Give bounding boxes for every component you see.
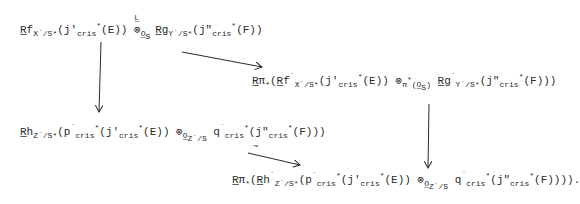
iso-label: ~ bbox=[253, 142, 258, 152]
arrow-bottom-diagonal bbox=[248, 153, 300, 165]
node-top-left-text: R̲fX˙/S*(j'cris*(E)) ⊗O̲SL̲R̲gY˙/S*(j"cr… bbox=[20, 24, 263, 36]
arrow-top-diagonal bbox=[182, 52, 262, 67]
node-mid-left-text: R̲hZ˙/S*(p˙cris*(j'cris*(E)) ⊗O̲Z˙/S q˙c… bbox=[20, 126, 326, 138]
node-bottom-right: R̲π*(R̲h˙Z˙/S*(p˙cris*(j'cris*(E)) ⊗O̲Z˙… bbox=[232, 172, 580, 191]
arrow-right-vertical bbox=[428, 104, 429, 168]
node-bottom-right-text: R̲π*(R̲h˙Z˙/S*(p˙cris*(j'cris*(E)) ⊗O̲Z˙… bbox=[232, 174, 580, 186]
node-top-left: R̲fX˙/S*(j'cris*(E)) ⊗O̲SL̲R̲gY˙/S*(j"cr… bbox=[20, 22, 263, 41]
arrow-left-vertical bbox=[99, 42, 101, 112]
node-mid-right: R̲π*(R̲f˙X˙/S*(j'cris*(E)) ⊗π*(O̲S) R̲g˙… bbox=[252, 73, 556, 92]
node-mid-right-text: R̲π*(R̲f˙X˙/S*(j'cris*(E)) ⊗π*(O̲S) R̲g˙… bbox=[252, 75, 556, 87]
node-mid-left: R̲hZ˙/S*(p˙cris*(j'cris*(E)) ⊗O̲Z˙/S q˙c… bbox=[20, 124, 326, 143]
